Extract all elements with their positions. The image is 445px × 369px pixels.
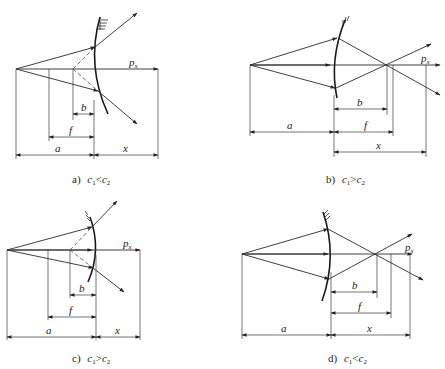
caption-c: c) c1>c2 (72, 352, 111, 366)
refracted-ray-lower (329, 234, 412, 279)
refraction-diagram: px b f a x a) c1<c2 px b (0, 0, 445, 369)
label-a: a (287, 119, 293, 131)
label-x: x (366, 322, 372, 334)
refracted-ray-upper (92, 201, 117, 227)
label-px: px (404, 241, 415, 255)
label-a: a (281, 322, 287, 334)
incident-ray-lower (242, 254, 329, 279)
incident-ray-upper (250, 38, 337, 65)
label-f: f (69, 124, 74, 136)
label-x: x (114, 324, 120, 336)
label-b: b (352, 279, 358, 291)
incident-ray-lower (250, 65, 335, 88)
label-a: a (46, 324, 52, 336)
panel-a: px b f a x a) c1<c2 (16, 13, 158, 187)
panel-d: px b f a x d) c1<c2 (242, 210, 423, 366)
label-b: b (357, 96, 363, 108)
label-b: b (79, 282, 85, 294)
virtual-ray-upper (70, 227, 92, 250)
incident-ray-upper (242, 229, 328, 254)
caption-a: a) c1<c2 (72, 173, 111, 187)
refracted-ray-lower (98, 91, 137, 124)
panel-c: px b f a x c) c1>c2 (7, 201, 140, 366)
incident-ray-upper (7, 227, 92, 250)
label-f: f (364, 119, 369, 131)
refracted-ray-upper (328, 229, 423, 280)
panel-b: px b a f x b) c1>c2 (250, 16, 440, 187)
caption-b: b) c1>c2 (326, 173, 365, 187)
refracted-ray-lower (336, 44, 431, 88)
label-px: px (122, 237, 133, 251)
label-px: px (420, 52, 431, 66)
refracted-ray-upper (95, 13, 137, 47)
interface-curve (95, 17, 108, 114)
hatch-marks (85, 211, 90, 221)
label-b: b (81, 101, 87, 113)
label-f: f (358, 300, 363, 312)
caption-d: d) c1<c2 (328, 352, 367, 366)
label-a: a (55, 142, 61, 154)
refracted-ray-lower (93, 268, 124, 292)
incident-ray-lower (7, 250, 93, 268)
label-x: x (375, 139, 381, 151)
label-px: px (128, 56, 139, 70)
label-x: x (122, 142, 128, 154)
interface-curve (322, 212, 330, 301)
label-f: f (69, 304, 74, 316)
incident-ray-upper (16, 47, 95, 69)
